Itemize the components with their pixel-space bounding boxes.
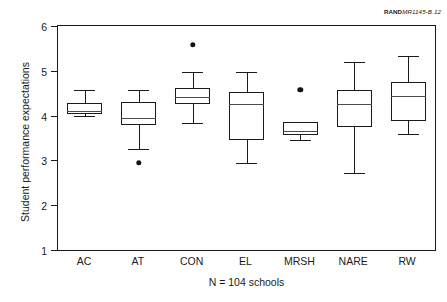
plot-area: 123456 — [58, 26, 435, 250]
y-tick-label-3: 3 — [41, 156, 47, 167]
report-tag-bold: RAND — [384, 8, 402, 15]
x-tick-label-mrsh: MRSH — [284, 256, 315, 267]
x-tick-label-con: CON — [180, 256, 203, 267]
report-tag-italic: MR1145-B.12 — [402, 8, 441, 15]
plot-frame: 123456 — [57, 25, 436, 251]
y-tick-4: 4 — [51, 116, 58, 117]
y-axis-title: Student performance expectations — [14, 22, 36, 262]
whisker-lower — [408, 121, 409, 134]
x-tick-label-at: AT — [131, 256, 144, 267]
y-tick-2: 2 — [51, 205, 58, 206]
x-tick-label-nare: NARE — [339, 256, 368, 267]
y-tick-label-5: 5 — [41, 67, 47, 78]
x-axis-caption: N = 104 schools — [57, 277, 436, 288]
x-tick-label-rw: RW — [398, 256, 415, 267]
y-tick-label-4: 4 — [41, 111, 47, 122]
y-tick-label-6: 6 — [41, 22, 47, 33]
y-tick-3: 3 — [51, 160, 58, 161]
whisker-cap-upper — [398, 56, 419, 57]
x-tick-label-ac: AC — [77, 256, 92, 267]
whisker-upper — [408, 56, 409, 82]
y-tick-5: 5 — [51, 71, 58, 72]
box-iqr — [391, 82, 426, 121]
whisker-cap-lower — [398, 134, 419, 135]
boxplot-rw — [58, 26, 435, 250]
report-tag: RANDMR1145-B.12 — [384, 9, 441, 15]
figure-container: RANDMR1145-B.12 Student performance expe… — [0, 0, 447, 302]
y-tick-1: 1 — [51, 250, 58, 251]
median-line — [391, 96, 426, 97]
y-tick-label-1: 1 — [41, 246, 47, 257]
y-tick-label-2: 2 — [41, 201, 47, 212]
x-tick-label-el: EL — [239, 256, 252, 267]
y-tick-6: 6 — [51, 26, 58, 27]
